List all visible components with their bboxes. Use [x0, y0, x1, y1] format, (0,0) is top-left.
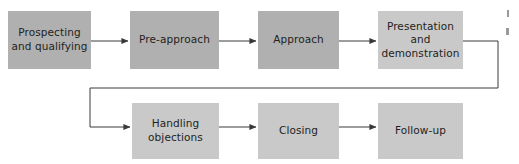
process-step-approach: Approach [258, 11, 339, 69]
process-step-label: Prospecting and qualifying [11, 26, 87, 53]
process-step-closing: Closing [258, 103, 339, 159]
process-step-prospecting-and-qualifying: Prospecting and qualifying [8, 11, 91, 69]
process-step-label: Approach [273, 33, 324, 47]
edge-mark-upper [507, 10, 509, 17]
process-step-label: Follow-up [395, 124, 446, 138]
process-step-label: Closing [279, 124, 318, 138]
edge-mark-lower [506, 28, 509, 35]
process-step-label: Presentation and demonstration [381, 20, 459, 61]
process-step-follow-up: Follow-up [378, 103, 463, 159]
page-edge-marks [503, 8, 517, 42]
process-step-presentation-and-demonstration: Presentation and demonstration [378, 11, 463, 69]
process-step-label: Pre-approach [139, 33, 210, 47]
process-step-label: Handling objections [148, 117, 203, 144]
process-step-pre-approach: Pre-approach [130, 11, 219, 69]
process-flow-diagram: Prospecting and qualifying Pre-approach … [0, 0, 519, 164]
process-step-handling-objections: Handling objections [132, 103, 219, 159]
